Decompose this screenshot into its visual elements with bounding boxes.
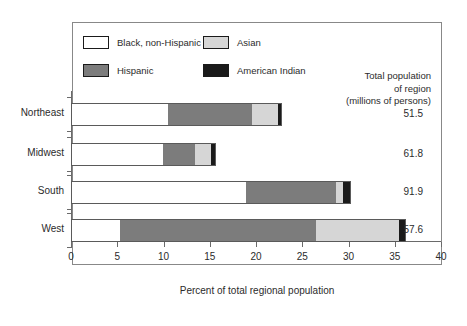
bar-segment-black-non-hispanic <box>72 220 120 241</box>
x-axis-tick-label: 5 <box>114 251 120 262</box>
y-axis-tick <box>67 171 72 172</box>
bar-segment-black-non-hispanic <box>72 104 168 125</box>
y-axis-tick <box>67 209 72 210</box>
y-axis-tick <box>67 247 72 248</box>
bar-segment-black-non-hispanic <box>72 182 246 203</box>
x-axis-tick <box>349 242 350 247</box>
total-population-value-south: 91.9 <box>404 186 423 197</box>
x-axis-tick <box>395 242 396 247</box>
x-axis-tick-label: 40 <box>435 251 446 262</box>
x-axis-tick <box>256 242 257 247</box>
x-axis-title: Percent of total regional population <box>73 285 441 296</box>
bar-northeast <box>71 103 282 126</box>
total-population-value-west: 57.6 <box>404 224 423 235</box>
total-population-value-midwest: 61.8 <box>404 148 423 159</box>
bar-segment-american-indian <box>278 104 281 125</box>
bar-segment-hispanic <box>163 144 195 165</box>
x-axis-tick-label: 35 <box>389 251 400 262</box>
bar-south <box>71 181 351 204</box>
bar-segment-american-indian <box>211 144 216 165</box>
y-axis-tick <box>67 213 72 214</box>
chart-frame: Black, non-Hispanic Asian Hispanic Ameri… <box>72 22 442 265</box>
bar-segment-asian <box>316 220 398 241</box>
region-label-west: West <box>41 223 64 234</box>
y-axis-tick <box>67 137 72 138</box>
total-population-value-northeast: 51.5 <box>404 108 423 119</box>
region-label-south: South <box>38 185 64 196</box>
x-axis-tick-label: 20 <box>250 251 261 262</box>
bar-segment-asian <box>252 104 278 125</box>
bar-midwest <box>71 143 216 166</box>
stacked-bar-chart: Black, non-Hispanic Asian Hispanic Ameri… <box>0 0 467 326</box>
x-axis-tick <box>302 242 303 247</box>
x-axis-tick <box>210 242 211 247</box>
x-axis-tick-label: 30 <box>343 251 354 262</box>
region-label-midwest: Midwest <box>27 147 64 158</box>
bar-segment-asian <box>336 182 343 203</box>
plot-area: Percent of total regional population 051… <box>73 23 441 264</box>
x-axis-tick-label: 15 <box>204 251 215 262</box>
bar-segment-hispanic <box>120 220 316 241</box>
y-axis-tick <box>67 97 72 98</box>
bar-west <box>71 219 406 242</box>
x-axis-tick <box>117 242 118 247</box>
bar-segment-black-non-hispanic <box>72 144 163 165</box>
x-axis-tick-label: 10 <box>158 251 169 262</box>
y-axis-tick <box>67 131 72 132</box>
x-axis-tick-label: 25 <box>297 251 308 262</box>
bar-segment-hispanic <box>168 104 252 125</box>
x-axis-tick-label: 0 <box>68 251 74 262</box>
x-axis-tick <box>441 242 442 247</box>
y-axis-tick <box>67 175 72 176</box>
bar-segment-hispanic <box>246 182 336 203</box>
x-axis-tick <box>164 242 165 247</box>
region-label-northeast: Northeast <box>21 107 64 118</box>
bar-segment-asian <box>195 144 211 165</box>
bar-segment-american-indian <box>343 182 350 203</box>
